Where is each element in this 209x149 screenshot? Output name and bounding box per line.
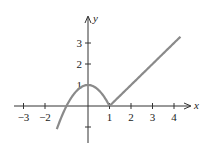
x-tick-label: 1 bbox=[107, 111, 113, 123]
x-tick-label: 2 bbox=[128, 111, 134, 123]
y-axis-label: y bbox=[92, 12, 98, 24]
function-curve bbox=[57, 37, 181, 129]
x-tick-label: −2 bbox=[39, 111, 51, 123]
axes: −3−21234 123 x y bbox=[14, 12, 199, 143]
x-tick-label: −3 bbox=[18, 111, 30, 123]
function-graph: −3−21234 123 x y bbox=[0, 0, 209, 149]
y-tick-label: 3 bbox=[77, 37, 83, 49]
curve-segment bbox=[110, 37, 181, 106]
x-axis-label: x bbox=[193, 99, 199, 111]
y-ticks: 123 bbox=[77, 37, 92, 127]
x-tick-label: 4 bbox=[171, 111, 177, 123]
x-tick-label: 3 bbox=[150, 111, 156, 123]
curve-segment bbox=[57, 85, 110, 129]
y-tick-label: 2 bbox=[77, 58, 83, 70]
